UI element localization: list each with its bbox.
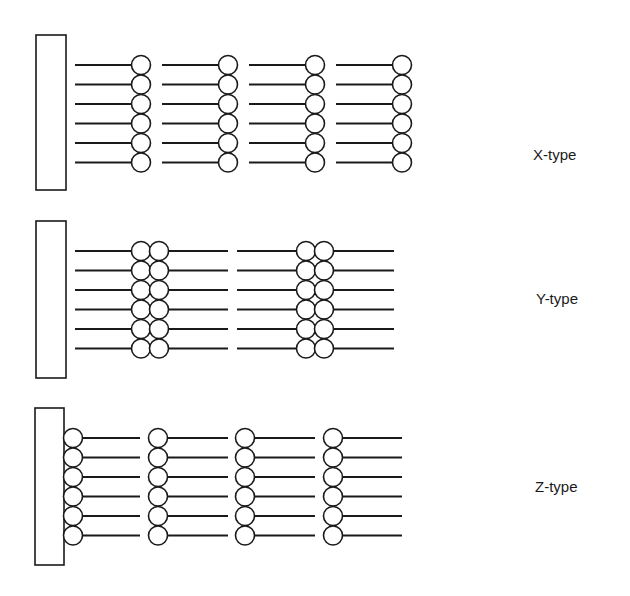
hydrophilic-head	[393, 95, 412, 114]
hydrophilic-head	[324, 487, 343, 506]
hydrophilic-head	[219, 114, 238, 133]
hydrophilic-head	[219, 56, 238, 75]
hydrophilic-head	[150, 281, 169, 300]
hydrophilic-head	[297, 242, 316, 261]
hydrophilic-head	[132, 242, 151, 261]
molecule-layer	[336, 56, 412, 173]
hydrophilic-head	[393, 134, 412, 153]
hydrophilic-head	[306, 114, 325, 133]
hydrophilic-head	[236, 487, 255, 506]
hydrophilic-head	[236, 429, 255, 448]
hydrophilic-head	[150, 242, 169, 261]
hydrophilic-head	[324, 507, 343, 526]
hydrophilic-head	[150, 300, 169, 319]
hydrophilic-head	[315, 339, 334, 358]
z-type-label: Z-type	[535, 478, 578, 495]
hydrophilic-head	[236, 468, 255, 487]
substrate	[35, 408, 64, 565]
hydrophilic-head	[315, 242, 334, 261]
hydrophilic-head	[297, 261, 316, 280]
hydrophilic-head	[315, 281, 334, 300]
molecule-layer	[149, 429, 229, 546]
molecule-layer	[236, 429, 316, 546]
hydrophilic-head	[236, 448, 255, 467]
hydrophilic-head	[64, 429, 83, 448]
hydrophilic-head	[219, 75, 238, 94]
hydrophilic-head	[219, 134, 238, 153]
molecule-layer	[324, 429, 403, 546]
hydrophilic-head	[64, 448, 83, 467]
hydrophilic-head	[132, 261, 151, 280]
hydrophilic-head	[132, 56, 151, 75]
molecule-layer	[64, 429, 141, 546]
molecule-layer	[297, 242, 395, 359]
hydrophilic-head	[315, 261, 334, 280]
hydrophilic-head	[219, 153, 238, 172]
hydrophilic-head	[132, 281, 151, 300]
hydrophilic-head	[236, 526, 255, 545]
molecule-layer	[162, 56, 238, 173]
hydrophilic-head	[149, 429, 168, 448]
hydrophilic-head	[324, 429, 343, 448]
x-type-label: X-type	[533, 146, 576, 163]
hydrophilic-head	[150, 320, 169, 339]
molecule-layer	[237, 251, 297, 349]
hydrophilic-head	[149, 487, 168, 506]
hydrophilic-head	[149, 526, 168, 545]
hydrophilic-head	[64, 526, 83, 545]
molecule-layer	[249, 56, 325, 173]
hydrophilic-head	[306, 153, 325, 172]
hydrophilic-head	[150, 261, 169, 280]
hydrophilic-head	[149, 468, 168, 487]
hydrophilic-head	[132, 95, 151, 114]
hydrophilic-head	[150, 339, 169, 358]
hydrophilic-head	[315, 320, 334, 339]
hydrophilic-head	[393, 114, 412, 133]
hydrophilic-head	[297, 320, 316, 339]
hydrophilic-head	[306, 134, 325, 153]
hydrophilic-head	[132, 300, 151, 319]
hydrophilic-head	[324, 468, 343, 487]
molecule-layer	[132, 242, 229, 359]
hydrophilic-head	[324, 526, 343, 545]
hydrophilic-head	[393, 75, 412, 94]
y-type-panel	[36, 221, 394, 378]
hydrophilic-head	[236, 507, 255, 526]
z-type-panel	[35, 408, 402, 565]
hydrophilic-head	[315, 300, 334, 319]
hydrophilic-head	[132, 75, 151, 94]
y-type-label: Y-type	[536, 290, 578, 307]
hydrophilic-head	[297, 300, 316, 319]
substrate	[36, 221, 66, 378]
hydrophilic-head	[149, 448, 168, 467]
hydrophilic-head	[132, 134, 151, 153]
hydrophilic-head	[306, 56, 325, 75]
x-type-panel	[36, 35, 412, 190]
substrate	[36, 35, 66, 190]
hydrophilic-head	[393, 56, 412, 75]
hydrophilic-head	[64, 487, 83, 506]
hydrophilic-head	[132, 114, 151, 133]
molecule-layer	[75, 56, 151, 173]
hydrophilic-head	[132, 320, 151, 339]
hydrophilic-head	[64, 468, 83, 487]
hydrophilic-head	[306, 75, 325, 94]
hydrophilic-head	[132, 339, 151, 358]
hydrophilic-head	[306, 95, 325, 114]
hydrophilic-head	[219, 95, 238, 114]
hydrophilic-head	[297, 281, 316, 300]
molecule-layer	[75, 251, 132, 349]
hydrophilic-head	[149, 507, 168, 526]
hydrophilic-head	[324, 448, 343, 467]
hydrophilic-head	[132, 153, 151, 172]
hydrophilic-head	[393, 153, 412, 172]
hydrophilic-head	[297, 339, 316, 358]
hydrophilic-head	[64, 507, 83, 526]
